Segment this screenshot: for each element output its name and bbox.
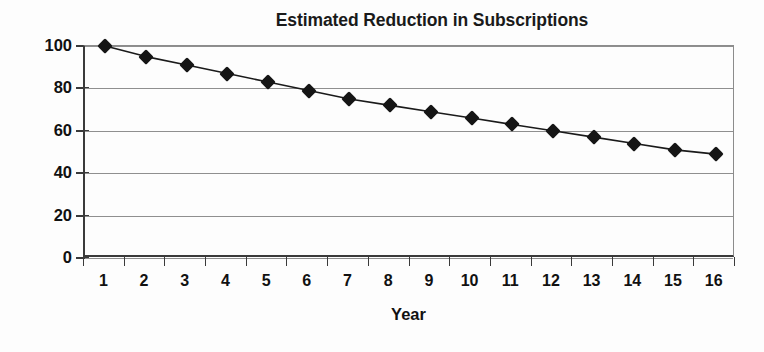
x-axis-tick-label: 8	[384, 272, 393, 290]
x-axis-tick-mark	[164, 257, 165, 266]
x-axis-ticks	[83, 257, 734, 267]
chart-title: Estimated Reduction in Subscriptions	[50, 10, 764, 31]
x-axis-tick-mark	[327, 257, 328, 266]
x-axis-tick-label: 10	[461, 272, 479, 290]
x-axis-tick-mark	[531, 257, 532, 266]
x-axis-tick-mark	[124, 257, 125, 266]
x-axis-tick-mark	[246, 257, 247, 266]
x-axis-tick-mark	[83, 257, 84, 266]
data-series-line	[85, 46, 736, 258]
plot-area	[83, 45, 734, 257]
x-axis-tick-label: 1	[99, 272, 108, 290]
x-axis-tick-label: 2	[140, 272, 149, 290]
x-axis-tick-label: 15	[664, 272, 682, 290]
x-axis-tick-mark	[409, 257, 410, 266]
x-axis-tick-label: 12	[542, 272, 560, 290]
x-axis-tick-mark	[368, 257, 369, 266]
x-axis-title: Year	[83, 305, 734, 324]
x-axis-tick-mark	[490, 257, 491, 266]
x-axis-tick-label: 13	[583, 272, 601, 290]
x-axis-tick-label: 5	[262, 272, 271, 290]
x-axis-tick-mark	[286, 257, 287, 266]
x-axis-tick-mark	[205, 257, 206, 266]
x-axis-tick-label: 14	[623, 272, 641, 290]
chart-figure: Estimated Reduction in Subscriptions 020…	[0, 0, 764, 352]
x-axis-tick-mark	[693, 257, 694, 266]
x-axis-tick-label: 16	[705, 272, 723, 290]
x-axis-tick-label: 3	[180, 272, 189, 290]
x-axis-tick-label: 9	[424, 272, 433, 290]
x-axis-tick-label: 7	[343, 272, 352, 290]
x-axis-tick-mark	[449, 257, 450, 266]
y-axis-ticks	[0, 45, 95, 257]
x-axis-tick-mark	[612, 257, 613, 266]
x-axis-labels: 12345678910111213141516	[83, 272, 734, 298]
x-axis-tick-label: 6	[302, 272, 311, 290]
x-axis-tick-label: 4	[221, 272, 230, 290]
x-axis-tick-label: 11	[502, 272, 519, 290]
x-axis-tick-mark	[571, 257, 572, 266]
x-axis-tick-mark	[653, 257, 654, 266]
x-axis-tick-mark	[734, 257, 735, 266]
